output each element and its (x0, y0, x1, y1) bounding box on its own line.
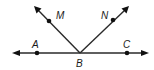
point-n (111, 18, 116, 23)
point-a (35, 51, 40, 56)
arrow-right-icon (141, 50, 149, 56)
point-c (125, 51, 130, 56)
label-m: M (56, 10, 65, 21)
label-c: C (123, 39, 131, 50)
label-b: B (76, 58, 83, 69)
label-a: A (31, 39, 39, 50)
label-n: N (101, 10, 109, 21)
point-m (47, 19, 52, 24)
geometry-diagram: A B C M N (0, 0, 154, 70)
arrow-left-icon (12, 50, 20, 56)
